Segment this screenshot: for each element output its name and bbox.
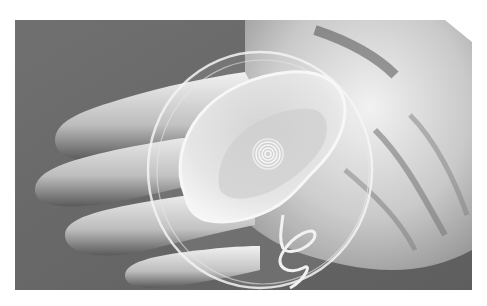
photo-illustration xyxy=(15,20,472,290)
photo xyxy=(15,20,472,290)
